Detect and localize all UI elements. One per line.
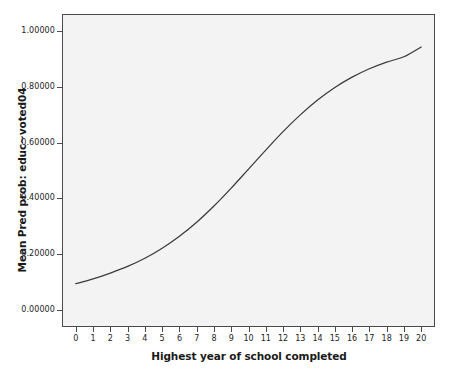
- x-tick-mark: [318, 327, 319, 332]
- x-tick-mark: [335, 327, 336, 332]
- x-tick-label: 18: [378, 334, 396, 344]
- x-tick-label: 3: [119, 334, 137, 344]
- x-tick-mark: [128, 327, 129, 332]
- x-tick-mark: [266, 327, 267, 332]
- x-tick-label: 2: [101, 334, 119, 344]
- chart-container: Mean Pred prob: educ~voted04 1.000000.80…: [0, 0, 453, 374]
- x-tick-label: 5: [153, 334, 171, 344]
- x-tick-label: 11: [257, 334, 275, 344]
- x-tick-mark: [76, 327, 77, 332]
- x-tick-mark: [369, 327, 370, 332]
- x-tick-label: 17: [360, 334, 378, 344]
- x-tick-mark: [352, 327, 353, 332]
- x-tick-label: 19: [395, 334, 413, 344]
- x-tick-label: 12: [274, 334, 292, 344]
- x-tick-label: 1: [84, 334, 102, 344]
- x-tick-mark: [214, 327, 215, 332]
- x-axis-title: Highest year of school completed: [62, 350, 436, 362]
- x-tick-mark: [110, 327, 111, 332]
- x-tick-label: 10: [240, 334, 258, 344]
- x-tick-mark: [421, 327, 422, 332]
- x-axis-tick-labels: 01234567891011121314151617181920: [0, 0, 453, 374]
- x-tick-mark: [387, 327, 388, 332]
- x-tick-label: 8: [205, 334, 223, 344]
- x-tick-label: 6: [170, 334, 188, 344]
- x-tick-label: 4: [136, 334, 154, 344]
- x-tick-mark: [93, 327, 94, 332]
- x-tick-mark: [300, 327, 301, 332]
- x-tick-label: 16: [343, 334, 361, 344]
- x-tick-mark: [283, 327, 284, 332]
- x-tick-label: 0: [67, 334, 85, 344]
- x-tick-mark: [162, 327, 163, 332]
- x-tick-mark: [179, 327, 180, 332]
- x-tick-label: 14: [309, 334, 327, 344]
- x-tick-label: 9: [222, 334, 240, 344]
- x-tick-mark: [145, 327, 146, 332]
- x-tick-label: 20: [412, 334, 430, 344]
- x-tick-mark: [197, 327, 198, 332]
- x-tick-mark: [404, 327, 405, 332]
- x-tick-label: 13: [291, 334, 309, 344]
- x-tick-mark: [249, 327, 250, 332]
- x-tick-label: 7: [188, 334, 206, 344]
- x-tick-label: 15: [326, 334, 344, 344]
- x-tick-mark: [231, 327, 232, 332]
